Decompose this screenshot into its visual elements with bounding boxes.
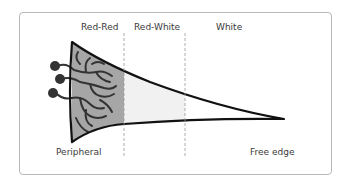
- label-free-edge: Free edge: [250, 147, 294, 157]
- zone-label-white: White: [216, 22, 242, 32]
- zone-label-red-white: Red-White: [134, 22, 180, 32]
- red-white-zone: [124, 72, 185, 124]
- label-peripheral: Peripheral: [56, 147, 102, 157]
- vessel-origins-icon: [48, 61, 65, 98]
- zone-label-red-red: Red-Red: [81, 22, 118, 32]
